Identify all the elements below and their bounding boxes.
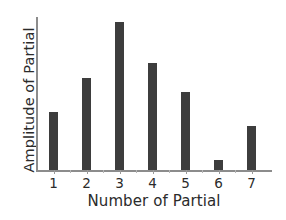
x-axis-tick	[186, 170, 187, 174]
x-axis-tick	[252, 170, 253, 174]
x-axis-minor-tick	[169, 170, 170, 173]
x-axis-minor-tick	[202, 170, 203, 173]
x-axis-tick-label: 4	[141, 175, 165, 191]
x-axis-tick-label: 1	[42, 175, 66, 191]
x-axis-title: Number of Partial	[36, 192, 272, 210]
x-axis-tick	[219, 170, 220, 174]
x-axis-tick-label: 7	[240, 175, 264, 191]
x-axis-tick-label: 5	[174, 175, 198, 191]
x-axis-tick	[87, 170, 88, 174]
x-axis-tick	[153, 170, 154, 174]
x-axis-line	[36, 170, 272, 172]
x-axis-minor-tick	[70, 170, 71, 173]
bar	[247, 126, 256, 170]
bar-chart: Amplitude of Partial 1234567 Number of P…	[0, 0, 286, 220]
x-axis-tick-label: 3	[108, 175, 132, 191]
bar	[148, 63, 157, 170]
x-axis-tick	[120, 170, 121, 174]
bar	[82, 78, 91, 170]
x-axis-minor-tick	[103, 170, 104, 173]
x-axis-tick-label: 6	[207, 175, 231, 191]
x-axis-minor-tick	[235, 170, 236, 173]
bar	[115, 22, 124, 170]
bar	[214, 160, 223, 170]
plot-area: 1234567	[36, 17, 272, 170]
bar	[49, 112, 58, 170]
x-axis-tick	[54, 170, 55, 174]
x-axis-minor-tick	[136, 170, 137, 173]
bar	[181, 92, 190, 170]
x-axis-tick-label: 2	[75, 175, 99, 191]
